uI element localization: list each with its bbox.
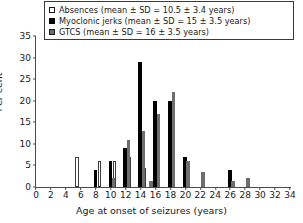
y-axis-tick-label: 20: [20, 96, 31, 105]
x-axis-tick-label: 10: [105, 191, 116, 200]
y-axis-tick-mark: [33, 143, 36, 144]
y-axis-title: Per cent: [0, 73, 4, 112]
x-axis-tick-label: 0: [33, 191, 39, 200]
x-axis-tick-label: 18: [165, 191, 176, 200]
x-axis-tick-label: 4: [63, 191, 69, 200]
x-axis-tick: 18: [165, 187, 176, 200]
x-axis-tick-label: 30: [254, 191, 265, 200]
x-axis-tick-label: 8: [93, 191, 99, 200]
x-axis-tick-label: 6: [78, 191, 84, 200]
x-axis-tick: 34: [284, 187, 295, 200]
y-axis-tick: 10: [20, 139, 36, 148]
y-axis-tick-mark: [33, 79, 36, 80]
x-axis-tick: 14: [135, 187, 146, 200]
x-axis-tick-label: 24: [210, 191, 221, 200]
x-axis-title: Age at onset of seizures (years): [0, 205, 303, 216]
y-axis-tick-mark: [33, 100, 36, 101]
bar-gtcs-age-28: [246, 178, 249, 187]
x-axis-tick-label: 14: [135, 191, 146, 200]
y-axis-tick-label: 5: [25, 161, 31, 170]
legend-swatch-open-square-icon: [49, 7, 55, 13]
bar-absences-age-6: [75, 157, 78, 187]
y-axis-tick: 30: [20, 53, 36, 62]
y-axis-tick-label: 0: [25, 183, 31, 192]
x-axis-tick-label: 34: [284, 191, 295, 200]
x-axis-tick: 10: [105, 187, 116, 200]
x-axis-tick-label: 12: [120, 191, 131, 200]
legend-item-myoclonic-jerks: Myoclonic jerks (mean ± SD = 15 ± 3.5 ye…: [49, 15, 289, 26]
x-axis-tick-label: 28: [239, 191, 250, 200]
bar-gtcs-age-16: [157, 114, 160, 187]
figure: Absences (mean ± SD = 10.5 ± 3.4 years) …: [0, 0, 303, 223]
x-axis-tick-label: 2: [48, 191, 54, 200]
legend-label-gtcs: GTCS (mean ± SD = 16 ± 3.5 years): [59, 27, 209, 37]
y-axis-tick: 20: [20, 96, 36, 105]
x-axis-tick: 8: [93, 187, 99, 200]
x-axis-tick-label: 22: [195, 191, 206, 200]
legend-item-gtcs: GTCS (mean ± SD = 16 ± 3.5 years): [49, 26, 289, 37]
x-axis-tick: 28: [239, 187, 250, 200]
x-axis-tick: 16: [150, 187, 161, 200]
y-axis-tick: 15: [20, 118, 36, 127]
y-axis-tick-label: 35: [20, 32, 31, 41]
y-axis-tick-label: 10: [20, 139, 31, 148]
bar-gtcs-age-18: [172, 92, 175, 187]
legend-label-myoclonic-jerks: Myoclonic jerks (mean ± SD = 15 ± 3.5 ye…: [59, 16, 250, 26]
chart-legend: Absences (mean ± SD = 10.5 ± 3.4 years) …: [44, 1, 294, 40]
x-axis-tick: 6: [78, 187, 84, 200]
bar-gtcs-age-12: [127, 140, 130, 187]
x-axis-tick: 32: [269, 187, 280, 200]
x-axis-line: [35, 187, 291, 188]
y-axis-tick: 35: [20, 32, 36, 41]
bar-gtcs-age-14: [142, 131, 145, 187]
x-axis-tick: 4: [63, 187, 69, 200]
plot-area: 0510152025303502468101214161820222426283…: [36, 36, 290, 187]
bar-absences-age-9: [98, 161, 101, 187]
x-axis-tick-label: 32: [269, 191, 280, 200]
bar-gtcs-age-26: [231, 181, 234, 187]
bar-gtcs-age-10: [112, 178, 115, 187]
y-axis-tick-mark: [33, 36, 36, 37]
x-axis-tick: 24: [210, 187, 221, 200]
y-axis-tick-label: 30: [20, 53, 31, 62]
bar-gtcs-age-15: [149, 181, 152, 187]
x-axis-tick: 0: [33, 187, 39, 200]
x-axis-tick: 26: [225, 187, 236, 200]
legend-swatch-grey-square-icon: [49, 29, 55, 35]
bar-gtcs-age-22: [201, 172, 204, 187]
x-axis-tick: 22: [195, 187, 206, 200]
legend-item-absences: Absences (mean ± SD = 10.5 ± 3.4 years): [49, 4, 289, 15]
x-axis-tick-label: 16: [150, 191, 161, 200]
y-axis-tick: 5: [25, 161, 36, 170]
x-axis-tick: 30: [254, 187, 265, 200]
y-axis-tick-mark: [33, 122, 36, 123]
y-axis-tick-label: 25: [20, 75, 31, 84]
y-axis-tick-label: 15: [20, 118, 31, 127]
y-axis-tick-mark: [33, 165, 36, 166]
bar-myoclonic-jerks-age-8: [94, 170, 97, 187]
x-axis-tick: 12: [120, 187, 131, 200]
y-axis-tick-mark: [33, 57, 36, 58]
legend-label-absences: Absences (mean ± SD = 10.5 ± 3.4 years): [59, 5, 234, 15]
x-axis-tick-label: 26: [225, 191, 236, 200]
bar-gtcs-age-20: [186, 161, 189, 187]
x-axis-tick: 20: [180, 187, 191, 200]
legend-swatch-filled-square-icon: [49, 18, 55, 24]
y-axis-tick: 25: [20, 75, 36, 84]
x-axis-tick-label: 20: [180, 191, 191, 200]
x-axis-tick: 2: [48, 187, 54, 200]
